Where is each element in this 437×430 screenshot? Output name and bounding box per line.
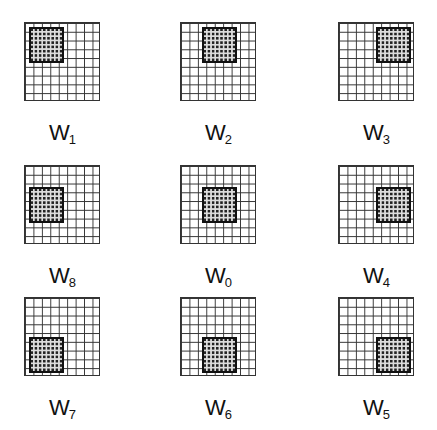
highlighted-window bbox=[202, 187, 237, 223]
grid bbox=[180, 165, 256, 244]
highlighted-window bbox=[29, 337, 64, 373]
grid bbox=[180, 297, 256, 376]
grid bbox=[338, 165, 414, 244]
panel-label: W4 bbox=[326, 263, 426, 290]
panel-label: W5 bbox=[326, 395, 426, 422]
highlighted-window bbox=[376, 187, 411, 223]
grid bbox=[180, 22, 256, 101]
highlighted-window bbox=[29, 27, 64, 63]
panel-label: W0 bbox=[168, 263, 268, 290]
grid bbox=[24, 165, 100, 244]
panel-label: W2 bbox=[168, 120, 268, 147]
panel-label: W8 bbox=[12, 263, 112, 290]
highlighted-window bbox=[29, 187, 64, 223]
highlighted-window bbox=[376, 27, 411, 63]
highlighted-window bbox=[202, 27, 237, 63]
highlighted-window bbox=[202, 337, 237, 373]
grid bbox=[24, 22, 100, 101]
panel-label: W3 bbox=[326, 120, 426, 147]
panel-label: W1 bbox=[12, 120, 112, 147]
grid bbox=[338, 297, 414, 376]
panel-label: W6 bbox=[168, 395, 268, 422]
grid bbox=[24, 297, 100, 376]
grid bbox=[338, 22, 414, 101]
highlighted-window bbox=[376, 337, 411, 373]
panel-label: W7 bbox=[12, 395, 112, 422]
